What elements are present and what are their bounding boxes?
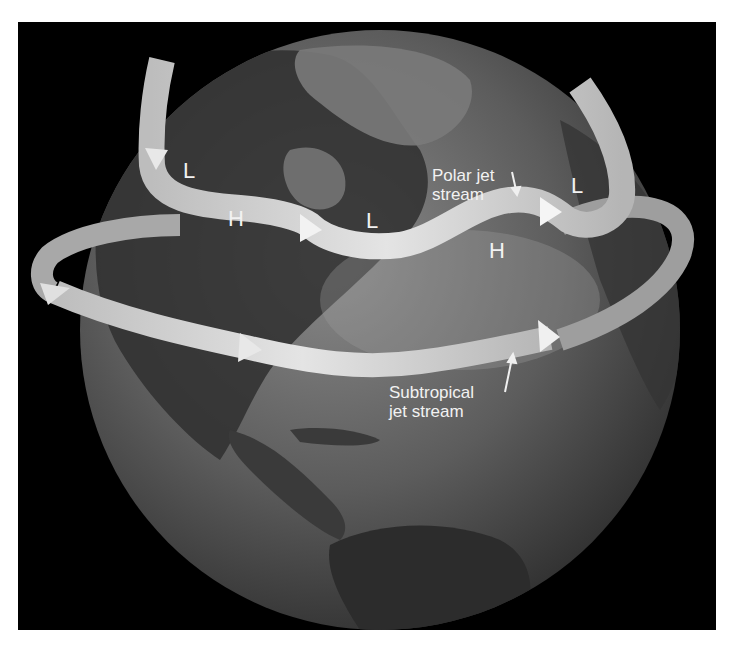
polar-jet-caption-line1: Polar jet [432,166,494,185]
subtropical-jet-caption-line2: jet stream [389,402,474,421]
high-pressure-label: H [228,208,244,230]
low-pressure-label: L [366,210,378,232]
subtropical-jet-stream-caption: Subtropical jet stream [389,383,474,421]
jet-stream-diagram: L H L H L Polar jet stream Subtropical j… [0,0,739,650]
polar-jet-caption-line2: stream [432,185,494,204]
subtropical-jet-caption-line1: Subtropical [389,383,474,402]
low-pressure-label: L [571,175,583,197]
polar-jet-stream-caption: Polar jet stream [432,166,494,204]
high-pressure-label: H [489,240,505,262]
globe-illustration [0,0,739,650]
low-pressure-label: L [183,160,195,182]
